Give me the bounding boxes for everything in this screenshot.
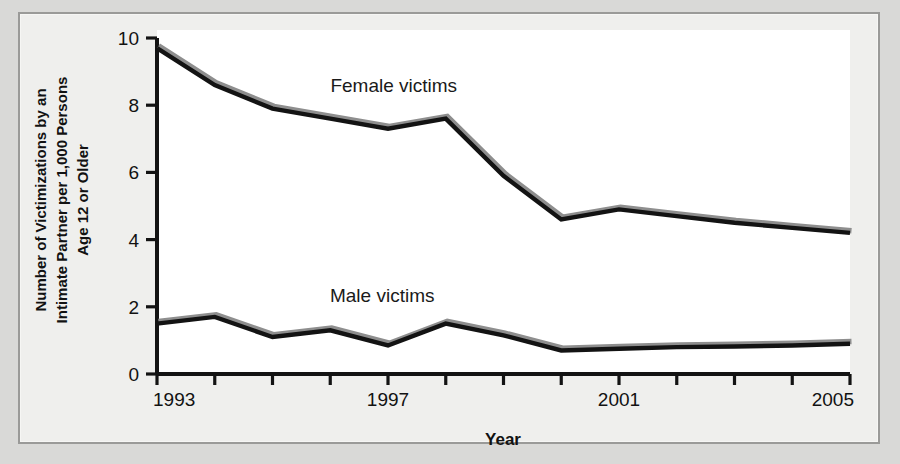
y-axis-tick-label: 10 [118, 28, 139, 49]
x-axis: 1993199720012005 [153, 374, 854, 410]
x-axis-tick-label: 2001 [598, 389, 640, 410]
y-axis-title: Number of Victimizations by an Intimate … [32, 77, 91, 324]
x-axis-tick-label: 1993 [153, 389, 195, 410]
x-axis-title: Year [485, 430, 521, 449]
y-axis-tick-label: 6 [128, 162, 139, 183]
y-axis-tick-label: 0 [128, 364, 139, 385]
x-axis-tick-label: 1997 [367, 389, 409, 410]
y-axis-tick-label: 4 [128, 230, 139, 251]
y-axis-title-line-2: Intimate Partner per 1,000 Persons [53, 77, 70, 324]
plot-background [157, 30, 850, 374]
y-axis-tick-label: 8 [128, 95, 139, 116]
series-annotation-male-victims: Male victims [330, 285, 435, 306]
y-axis-title-line-1: Number of Victimizations by an [32, 88, 49, 311]
y-axis: 0246810 [118, 28, 157, 385]
line-chart-svg: Number of Victimizations by an Intimate … [0, 0, 900, 464]
series-annotation-female-victims: Female victims [330, 75, 457, 96]
y-axis-tick-label: 2 [128, 297, 139, 318]
y-axis-title-line-3: Age 12 or Older [74, 144, 91, 256]
chart-plot-wrapper: Number of Victimizations by an Intimate … [0, 0, 900, 464]
x-axis-tick-label: 2005 [812, 389, 854, 410]
chart-figure: Number of Victimizations by an Intimate … [0, 0, 900, 464]
